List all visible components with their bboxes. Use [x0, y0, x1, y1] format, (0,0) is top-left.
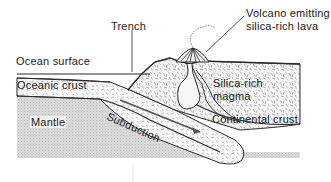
- mantle-label: Mantle: [30, 116, 66, 128]
- oceanic-crust-label: Oceanic crust: [17, 79, 87, 91]
- volcano: [176, 26, 215, 62]
- volcano-leader-line: [206, 16, 244, 52]
- volcanic-plume: [190, 26, 215, 47]
- trench-label: Trench: [111, 20, 146, 32]
- volcano-label-line2: silica-rich lava: [246, 20, 318, 32]
- subduction-diagram: Trench Volcano emitting silica-rich lava…: [0, 0, 331, 182]
- silica-magma-label-line2: magma: [213, 90, 251, 102]
- silica-magma-label-line1: Silica-rich: [213, 77, 263, 89]
- continental-crust-label: Continental crust: [212, 113, 298, 125]
- volcano-label-line1: Volcano emitting: [246, 7, 330, 19]
- ocean-surface-label: Ocean surface: [16, 55, 90, 67]
